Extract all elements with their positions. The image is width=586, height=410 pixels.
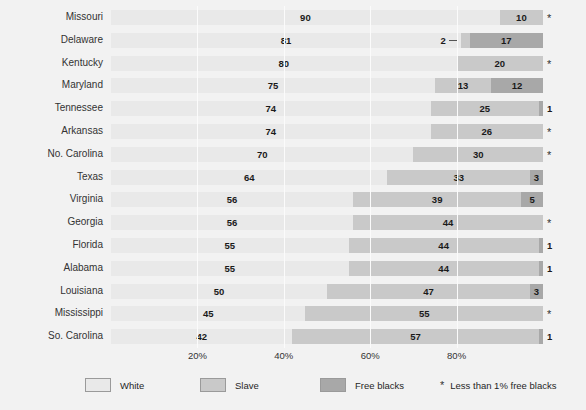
bar-track: 5644* [111, 215, 543, 230]
value-white: 64 [111, 170, 387, 185]
bar-track: 7030* [111, 147, 543, 162]
legend-swatch-white [85, 378, 111, 392]
value-white: 55 [111, 261, 349, 276]
bar-row: Missouri9010* [0, 6, 586, 29]
segment-free-blacks [539, 101, 543, 116]
bar-track: 751312 [111, 78, 543, 93]
bar-row: Florida55441 [0, 234, 586, 257]
value-white: 90 [111, 10, 500, 25]
value-free-blacks: 1 [547, 329, 552, 344]
row-label-no-carolina: No. Carolina [0, 143, 103, 166]
bar-row: Virginia56395 [0, 188, 586, 211]
bar-row: Maryland751312 [0, 74, 586, 97]
row-label-tennessee: Tennessee [0, 97, 103, 120]
bar-row: So. Carolina42571 [0, 325, 586, 348]
value-white: 55 [111, 238, 349, 253]
value-free-blacks: 1 [547, 238, 552, 253]
bar-track: 56395 [111, 192, 543, 207]
legend-item-slave[interactable]: Slave [200, 376, 259, 394]
value-free-blacks: 12 [491, 78, 543, 93]
bar-track: 64333 [111, 170, 543, 185]
row-label-kentucky: Kentucky [0, 52, 103, 75]
bar-track: 4555* [111, 306, 543, 321]
value-slave: 44 [349, 261, 539, 276]
segment-free-blacks [539, 261, 543, 276]
row-label-florida: Florida [0, 234, 103, 257]
stacked-bar-chart: Missouri9010*Delaware81217Kentucky8020*M… [0, 0, 586, 410]
bar-track: 55441 [111, 238, 543, 253]
bar-track: 74251 [111, 101, 543, 116]
x-axis: 20%40%60%80% [0, 350, 586, 366]
gridline-40 [284, 6, 285, 348]
value-slave: 10 [500, 10, 543, 25]
bar-row: Delaware81217 [0, 29, 586, 52]
less-than-one-percent-marker: * [547, 306, 551, 321]
bar-row: Arkansas7426* [0, 120, 586, 143]
less-than-one-percent-marker: * [547, 124, 551, 139]
value-slave: 57 [292, 329, 538, 344]
legend-item-white[interactable]: White [85, 376, 144, 394]
chart-legend: WhiteSlaveFree blacks*Less than 1% free … [0, 376, 586, 402]
value-slave: 39 [353, 192, 521, 207]
row-label-texas: Texas [0, 166, 103, 189]
segment-free-blacks [539, 238, 543, 253]
bar-track: 9010* [111, 10, 543, 25]
legend-swatch-free-blacks [320, 378, 346, 392]
bar-row: Texas64333 [0, 166, 586, 189]
x-tick-label-80pct: 80% [447, 350, 466, 361]
value-white: 56 [111, 192, 353, 207]
value-white: 81 [111, 33, 461, 48]
value-white: 42 [111, 329, 292, 344]
row-label-arkansas: Arkansas [0, 120, 103, 143]
value-free-blacks: 3 [530, 170, 543, 185]
bar-track: 50473 [111, 284, 543, 299]
row-label-missouri: Missouri [0, 6, 103, 29]
legend-item-free-blacks[interactable]: Free blacks [320, 376, 404, 394]
bar-row: Louisiana50473 [0, 280, 586, 303]
bar-row: Georgia5644* [0, 211, 586, 234]
less-than-one-percent-marker: * [547, 10, 551, 25]
x-tick-label-20pct: 20% [188, 350, 207, 361]
gridline-20 [197, 6, 198, 348]
legend-footnote-label: Less than 1% free blacks [450, 380, 556, 391]
value-white: 45 [111, 306, 305, 321]
value-slave: 30 [413, 147, 543, 162]
value-free-blacks: 3 [530, 284, 543, 299]
value-slave: 20 [457, 56, 543, 71]
row-label-georgia: Georgia [0, 211, 103, 234]
value-white: 74 [111, 124, 431, 139]
asterisk-icon: * [440, 379, 444, 391]
row-label-alabama: Alabama [0, 257, 103, 280]
row-label-maryland: Maryland [0, 74, 103, 97]
value-slave: 47 [327, 284, 530, 299]
gridline-60 [370, 6, 371, 348]
x-tick-label-60pct: 60% [361, 350, 380, 361]
value-white: 50 [111, 284, 327, 299]
value-free-blacks: 17 [470, 33, 543, 48]
row-label-louisiana: Louisiana [0, 280, 103, 303]
bar-track: 81217 [111, 33, 543, 48]
row-label-delaware: Delaware [0, 29, 103, 52]
segment-slave [461, 33, 470, 48]
value-white: 56 [111, 215, 353, 230]
value-slave: 33 [387, 170, 530, 185]
value-slave: 55 [305, 306, 543, 321]
legend-swatch-slave [200, 378, 226, 392]
value-free-blacks: 5 [521, 192, 543, 207]
value-slave: 2 [418, 33, 446, 48]
bar-track: 7426* [111, 124, 543, 139]
less-than-one-percent-marker: * [547, 56, 551, 71]
value-free-blacks: 1 [547, 261, 552, 276]
bar-track: 55441 [111, 261, 543, 276]
bar-row: Kentucky8020* [0, 52, 586, 75]
legend-label: Slave [235, 380, 259, 391]
less-than-one-percent-marker: * [547, 215, 551, 230]
legend-footnote: *Less than 1% free blacks [440, 376, 556, 394]
bar-row: Tennessee74251 [0, 97, 586, 120]
value-white: 75 [111, 78, 435, 93]
row-label-virginia: Virginia [0, 188, 103, 211]
value-slave: 44 [349, 238, 539, 253]
legend-label: Free blacks [355, 380, 404, 391]
bar-row: Alabama55441 [0, 257, 586, 280]
value-slave: 26 [431, 124, 543, 139]
